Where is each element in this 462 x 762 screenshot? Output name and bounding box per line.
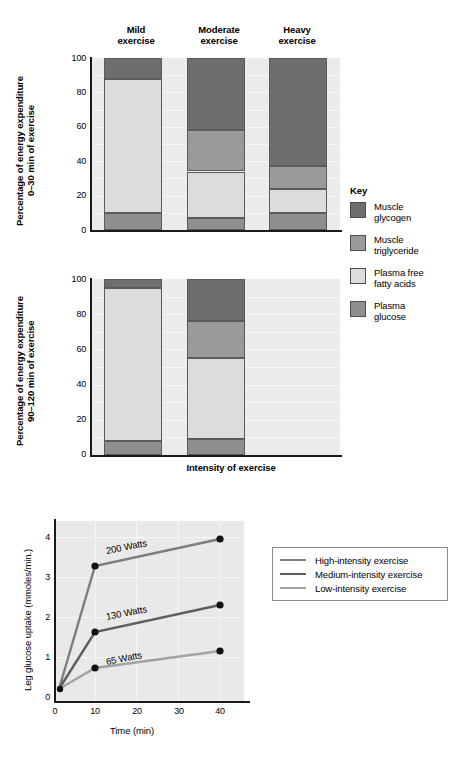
panel-b-y-axis-title-line1: Percentage of energy expenditure bbox=[14, 296, 25, 446]
bar-segment-plasma-glucose bbox=[187, 218, 245, 230]
panel-b-ytick-0: 0 bbox=[58, 450, 86, 459]
legend-item-medium-intensity: Medium-intensity exercise bbox=[280, 567, 439, 581]
panel-c-x-axis-title: Time (min) bbox=[110, 725, 154, 736]
panel-b-ytick-100: 100 bbox=[58, 275, 86, 284]
bar-segment-plasma-glucose bbox=[104, 213, 162, 230]
legend-label-medium-intensity: Medium-intensity exercise bbox=[315, 569, 422, 580]
panel-a-ytick-40: 40 bbox=[58, 157, 86, 166]
bar-heavy bbox=[269, 58, 327, 230]
key-label-muscle-glycogen: Muscle glycogen bbox=[374, 202, 411, 223]
bar-moderate bbox=[187, 58, 245, 230]
panel-b-ytick-80: 80 bbox=[58, 310, 86, 319]
bar-segment-muscle-glycogen bbox=[104, 58, 162, 79]
key-title: Key bbox=[350, 185, 367, 196]
bar-mild bbox=[104, 279, 162, 455]
category-label-mild: Mild exercise bbox=[100, 24, 172, 46]
panel-c-ytick-3: 3 bbox=[34, 573, 50, 582]
bar-segment-muscle-triglyceride bbox=[269, 166, 327, 188]
data-point bbox=[216, 647, 223, 654]
panel-c-ytick-1: 1 bbox=[34, 653, 50, 662]
panel-a-y-axis-title-line2: 0–30 min of exercise bbox=[25, 106, 36, 197]
bar-segment-muscle-glycogen bbox=[187, 279, 245, 321]
panel-c-xtick-0: 0 bbox=[48, 707, 62, 716]
panel-a-y-axis-title-line1: Percentage of energy expenditure bbox=[14, 76, 25, 226]
line-chart-legend: High-intensity exercise Medium-intensity… bbox=[272, 547, 448, 601]
bar-segment-muscle-glycogen bbox=[269, 58, 327, 166]
panel-b-x-axis-title: Intensity of exercise bbox=[0, 462, 462, 473]
panel-b-y-axis-title: Percentage of energy expenditure 90–120 … bbox=[14, 280, 38, 462]
panel-b-ytick-60: 60 bbox=[58, 345, 86, 354]
category-label-heavy-line2: exercise bbox=[278, 35, 315, 46]
panel-c-ytick-0: 0 bbox=[34, 693, 50, 702]
key-swatch-muscle-glycogen bbox=[350, 202, 366, 218]
category-label-mild-line1: Mild bbox=[127, 24, 146, 35]
panel-a-x-axis bbox=[90, 230, 342, 232]
panel-b-plot-area bbox=[92, 279, 340, 455]
data-point bbox=[91, 664, 98, 671]
panel-c: Leg glucose uptake (mmoles/min.) 4 3 2 1… bbox=[0, 495, 462, 762]
panel-b-ytick-20: 20 bbox=[58, 415, 86, 424]
panel-a-ytick-100: 100 bbox=[58, 54, 86, 63]
panel-c-x-axis bbox=[54, 701, 250, 703]
panel-c-xtick-10: 10 bbox=[88, 707, 102, 716]
panel-a-ytick-80: 80 bbox=[58, 88, 86, 97]
panel-a-y-axis bbox=[90, 57, 92, 232]
panel-c-xtick-20: 20 bbox=[130, 707, 144, 716]
key-swatch-muscle-triglyceride bbox=[350, 235, 366, 251]
bar-segment-muscle-glycogen bbox=[104, 279, 162, 288]
bar-segment-plasma-glucose bbox=[187, 439, 245, 455]
legend-line-high-intensity bbox=[280, 559, 306, 561]
category-label-heavy: Heavy exercise bbox=[258, 24, 336, 46]
panel-b: Percentage of energy expenditure 90–120 … bbox=[0, 250, 462, 480]
panel-c-ytick-4: 4 bbox=[34, 533, 50, 542]
series-line-medium-intensity bbox=[59, 605, 220, 689]
panel-a-y-axis-title: Percentage of energy expenditure 0–30 mi… bbox=[14, 60, 38, 242]
legend-item-low-intensity: Low-intensity exercise bbox=[280, 581, 439, 595]
bar-segment-plasma-ffa bbox=[187, 172, 245, 218]
bar-segment-plasma-glucose bbox=[104, 441, 162, 455]
bar-segment-muscle-triglyceride bbox=[187, 321, 245, 358]
data-point bbox=[57, 686, 63, 692]
panel-c-y-axis bbox=[54, 519, 56, 703]
data-point bbox=[91, 562, 98, 569]
panel-c-xtick-40: 40 bbox=[213, 707, 227, 716]
category-label-moderate-line2: exercise bbox=[200, 35, 237, 46]
legend-label-low-intensity: Low-intensity exercise bbox=[315, 583, 406, 594]
legend-label-high-intensity: High-intensity exercise bbox=[315, 555, 408, 566]
category-label-heavy-line1: Heavy bbox=[283, 24, 311, 35]
category-label-moderate-line1: Moderate bbox=[198, 24, 239, 35]
panel-b-y-axis-title-line2: 90–120 min of exercise bbox=[25, 320, 36, 421]
bar-mild bbox=[104, 58, 162, 230]
category-label-mild-line2: exercise bbox=[117, 35, 154, 46]
bar-segment-muscle-glycogen bbox=[187, 58, 245, 130]
legend-item-high-intensity: High-intensity exercise bbox=[280, 553, 439, 567]
panel-a-plot-area bbox=[92, 58, 340, 230]
bar-segment-muscle-triglyceride bbox=[187, 130, 245, 171]
data-point bbox=[91, 628, 98, 635]
panel-c-xtick-30: 30 bbox=[172, 707, 186, 716]
panel-b-x-axis bbox=[90, 455, 342, 457]
panel-b-ytick-40: 40 bbox=[58, 380, 86, 389]
category-label-moderate: Moderate exercise bbox=[178, 24, 260, 46]
panel-c-ytick-2: 2 bbox=[34, 613, 50, 622]
legend-line-medium-intensity bbox=[280, 573, 306, 575]
panel-c-plot-area: 200 Watts 130 Watts 65 Watts bbox=[56, 521, 244, 701]
bar-segment-plasma-ffa bbox=[104, 79, 162, 213]
data-point bbox=[216, 535, 223, 542]
panel-a-ytick-20: 20 bbox=[58, 191, 86, 200]
bar-segment-plasma-ffa bbox=[269, 189, 327, 213]
key-item-muscle-glycogen: Muscle glycogen bbox=[350, 202, 411, 223]
panel-b-y-axis bbox=[90, 278, 92, 457]
panel-a-ytick-0: 0 bbox=[58, 226, 86, 235]
data-point bbox=[216, 601, 223, 608]
legend-line-low-intensity bbox=[280, 587, 306, 589]
figure-root: Mild exercise Moderate exercise Heavy ex… bbox=[0, 0, 462, 762]
bar-segment-plasma-ffa bbox=[104, 288, 162, 441]
bar-segment-plasma-glucose bbox=[269, 213, 327, 230]
bar-segment-plasma-ffa bbox=[187, 358, 245, 439]
panel-a-ytick-60: 60 bbox=[58, 122, 86, 131]
bar-moderate bbox=[187, 279, 245, 455]
